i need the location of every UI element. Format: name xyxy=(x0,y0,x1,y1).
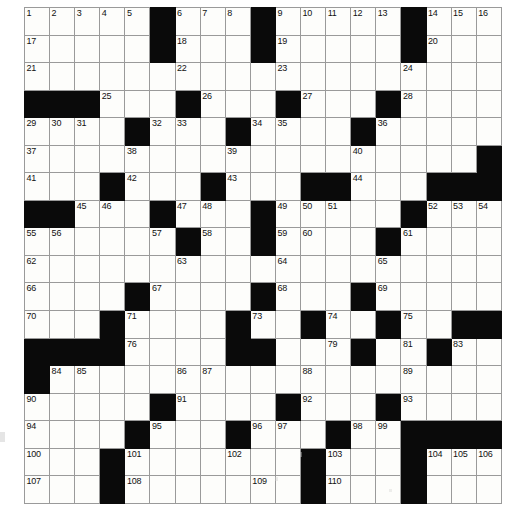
letter-cell[interactable]: 30 xyxy=(50,118,75,146)
letter-cell[interactable]: 1 xyxy=(25,8,50,36)
letter-cell[interactable]: 15 xyxy=(451,8,476,36)
letter-cell[interactable] xyxy=(50,63,75,91)
letter-cell[interactable] xyxy=(476,255,501,283)
letter-cell[interactable] xyxy=(200,118,225,146)
letter-cell[interactable] xyxy=(75,421,100,449)
letter-cell[interactable] xyxy=(175,448,200,476)
letter-cell[interactable] xyxy=(200,393,225,421)
letter-cell[interactable]: 48 xyxy=(200,200,225,228)
letter-cell[interactable] xyxy=(476,476,501,504)
letter-cell[interactable]: 42 xyxy=(125,173,150,201)
letter-cell[interactable]: 3 xyxy=(75,8,100,36)
letter-cell[interactable]: 41 xyxy=(25,173,50,201)
letter-cell[interactable] xyxy=(175,476,200,504)
letter-cell[interactable] xyxy=(250,63,275,91)
letter-cell[interactable]: 6 xyxy=(175,8,200,36)
letter-cell[interactable]: 13 xyxy=(376,8,401,36)
letter-cell[interactable] xyxy=(200,476,225,504)
letter-cell[interactable]: 61 xyxy=(401,228,426,256)
letter-cell[interactable] xyxy=(376,63,401,91)
letter-cell[interactable] xyxy=(50,283,75,311)
letter-cell[interactable] xyxy=(225,35,250,63)
letter-cell[interactable] xyxy=(351,228,376,256)
letter-cell[interactable]: 35 xyxy=(275,118,300,146)
letter-cell[interactable] xyxy=(476,393,501,421)
letter-cell[interactable] xyxy=(376,145,401,173)
letter-cell[interactable]: 107 xyxy=(25,476,50,504)
letter-cell[interactable] xyxy=(351,35,376,63)
letter-cell[interactable] xyxy=(225,228,250,256)
letter-cell[interactable]: 40 xyxy=(351,145,376,173)
letter-cell[interactable] xyxy=(75,393,100,421)
letter-cell[interactable] xyxy=(100,366,125,394)
letter-cell[interactable]: 11 xyxy=(326,8,351,36)
letter-cell[interactable] xyxy=(376,200,401,228)
letter-cell[interactable] xyxy=(401,173,426,201)
letter-cell[interactable] xyxy=(200,35,225,63)
letter-cell[interactable]: 55 xyxy=(25,228,50,256)
letter-cell[interactable]: 103 xyxy=(326,448,351,476)
letter-cell[interactable] xyxy=(250,173,275,201)
letter-cell[interactable]: 34 xyxy=(250,118,275,146)
letter-cell[interactable] xyxy=(476,283,501,311)
letter-cell[interactable]: 85 xyxy=(75,366,100,394)
letter-cell[interactable] xyxy=(401,283,426,311)
letter-cell[interactable]: 31 xyxy=(75,118,100,146)
letter-cell[interactable] xyxy=(351,90,376,118)
letter-cell[interactable] xyxy=(275,338,300,366)
letter-cell[interactable]: 20 xyxy=(426,35,451,63)
letter-cell[interactable] xyxy=(326,393,351,421)
letter-cell[interactable]: 49 xyxy=(275,200,300,228)
letter-cell[interactable] xyxy=(326,90,351,118)
letter-cell[interactable] xyxy=(100,63,125,91)
letter-cell[interactable]: 51 xyxy=(326,200,351,228)
letter-cell[interactable] xyxy=(50,476,75,504)
letter-cell[interactable]: 96 xyxy=(250,421,275,449)
letter-cell[interactable] xyxy=(75,448,100,476)
letter-cell[interactable] xyxy=(125,255,150,283)
letter-cell[interactable]: 39 xyxy=(225,145,250,173)
letter-cell[interactable]: 57 xyxy=(150,228,175,256)
letter-cell[interactable]: 53 xyxy=(451,200,476,228)
letter-cell[interactable] xyxy=(451,90,476,118)
letter-cell[interactable]: 25 xyxy=(100,90,125,118)
letter-cell[interactable] xyxy=(250,448,275,476)
letter-cell[interactable]: 64 xyxy=(275,255,300,283)
letter-cell[interactable] xyxy=(250,393,275,421)
letter-cell[interactable] xyxy=(451,283,476,311)
letter-cell[interactable] xyxy=(75,145,100,173)
letter-cell[interactable]: 104 xyxy=(426,448,451,476)
letter-cell[interactable] xyxy=(451,35,476,63)
letter-cell[interactable]: 63 xyxy=(175,255,200,283)
letter-cell[interactable]: 26 xyxy=(200,90,225,118)
letter-cell[interactable] xyxy=(175,173,200,201)
letter-cell[interactable]: 110 xyxy=(326,476,351,504)
crossword-grid[interactable]: 1234567891011121314151617181920212223242… xyxy=(24,7,482,485)
letter-cell[interactable]: 75 xyxy=(401,311,426,339)
letter-cell[interactable] xyxy=(225,200,250,228)
letter-cell[interactable]: 83 xyxy=(451,338,476,366)
letter-cell[interactable] xyxy=(50,255,75,283)
letter-cell[interactable] xyxy=(100,228,125,256)
letter-cell[interactable] xyxy=(100,421,125,449)
letter-cell[interactable] xyxy=(75,255,100,283)
letter-cell[interactable] xyxy=(326,145,351,173)
letter-cell[interactable] xyxy=(75,35,100,63)
letter-cell[interactable] xyxy=(200,448,225,476)
letter-cell[interactable] xyxy=(150,366,175,394)
letter-cell[interactable] xyxy=(326,228,351,256)
letter-cell[interactable] xyxy=(301,118,326,146)
letter-cell[interactable] xyxy=(75,173,100,201)
letter-cell[interactable] xyxy=(275,311,300,339)
letter-cell[interactable] xyxy=(351,63,376,91)
letter-cell[interactable]: 21 xyxy=(25,63,50,91)
letter-cell[interactable] xyxy=(200,283,225,311)
letter-cell[interactable] xyxy=(50,173,75,201)
letter-cell[interactable] xyxy=(125,393,150,421)
letter-cell[interactable] xyxy=(451,118,476,146)
letter-cell[interactable]: 38 xyxy=(125,145,150,173)
letter-cell[interactable]: 44 xyxy=(351,173,376,201)
letter-cell[interactable]: 59 xyxy=(275,228,300,256)
letter-cell[interactable] xyxy=(426,90,451,118)
letter-cell[interactable] xyxy=(476,228,501,256)
